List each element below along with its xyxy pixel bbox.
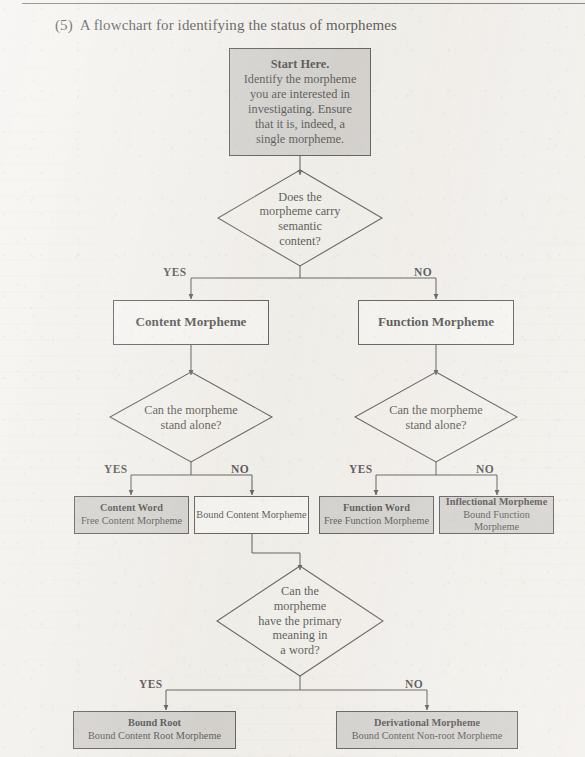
- label-semantic-no: NO: [414, 266, 432, 278]
- label-standalone-right-no: NO: [476, 463, 494, 475]
- function-word-title: Function Word: [343, 502, 410, 515]
- diamond-semantic-content: [218, 170, 382, 266]
- start-here-line-3: investigating. Ensure: [248, 102, 352, 117]
- inflectional-morpheme-subtitle: Bound Function Morpheme: [440, 509, 553, 534]
- bound-content-morpheme-title: Bound Content Morpheme: [196, 509, 306, 522]
- page-title-number: (5): [55, 17, 73, 33]
- node-derivational-morpheme[interactable]: Derivational Morpheme Bound Content Non-…: [336, 711, 518, 749]
- content-morpheme-label: Content Morpheme: [136, 314, 247, 330]
- node-function-word[interactable]: Function Word Free Function Morpheme: [319, 496, 434, 534]
- node-bound-root[interactable]: Bound Root Bound Content Root Morpheme: [73, 711, 236, 749]
- label-standalone-right-yes: YES: [349, 463, 373, 475]
- node-function-morpheme[interactable]: Function Morpheme: [358, 300, 514, 345]
- node-start-here[interactable]: Start Here. Identify the morpheme you ar…: [229, 48, 371, 156]
- inflectional-morpheme-title: Inflectional Morpheme: [446, 496, 548, 509]
- function-word-subtitle: Free Function Morpheme: [324, 515, 429, 528]
- bound-root-title: Bound Root: [128, 717, 181, 730]
- start-here-line-1: Identify the morpheme: [244, 72, 357, 87]
- diamond-primary-meaning: [217, 566, 383, 676]
- diamond-stand-alone-left: [110, 372, 272, 462]
- label-semantic-yes: YES: [163, 266, 187, 278]
- node-bound-content-morpheme[interactable]: Bound Content Morpheme: [194, 496, 309, 534]
- function-morpheme-label: Function Morpheme: [378, 314, 494, 330]
- label-standalone-left-yes: YES: [104, 463, 128, 475]
- page-title-text: A flowchart for identifying the status o…: [80, 17, 397, 33]
- node-content-word[interactable]: Content Word Free Content Morpheme: [74, 496, 189, 534]
- start-here-line-5: single morpheme.: [256, 132, 344, 147]
- node-inflectional-morpheme[interactable]: Inflectional Morpheme Bound Function Mor…: [439, 496, 554, 534]
- start-here-line-2: you are interested in: [250, 87, 350, 102]
- content-word-title: Content Word: [100, 502, 163, 515]
- start-here-heading: Start Here.: [271, 57, 330, 72]
- content-word-subtitle: Free Content Morpheme: [81, 515, 182, 528]
- page-title: (5)A flowchart for identifying the statu…: [55, 17, 397, 34]
- derivational-morpheme-subtitle: Bound Content Non-root Morpheme: [352, 730, 503, 743]
- derivational-morpheme-title: Derivational Morpheme: [374, 717, 480, 730]
- node-content-morpheme[interactable]: Content Morpheme: [113, 300, 269, 345]
- label-primary-yes: YES: [139, 678, 163, 690]
- diamond-stand-alone-right: [355, 372, 517, 462]
- label-primary-no: NO: [405, 678, 423, 690]
- start-here-line-4: that it is, indeed, a: [255, 117, 345, 132]
- bound-root-subtitle: Bound Content Root Morpheme: [88, 730, 221, 743]
- label-standalone-left-no: NO: [231, 463, 249, 475]
